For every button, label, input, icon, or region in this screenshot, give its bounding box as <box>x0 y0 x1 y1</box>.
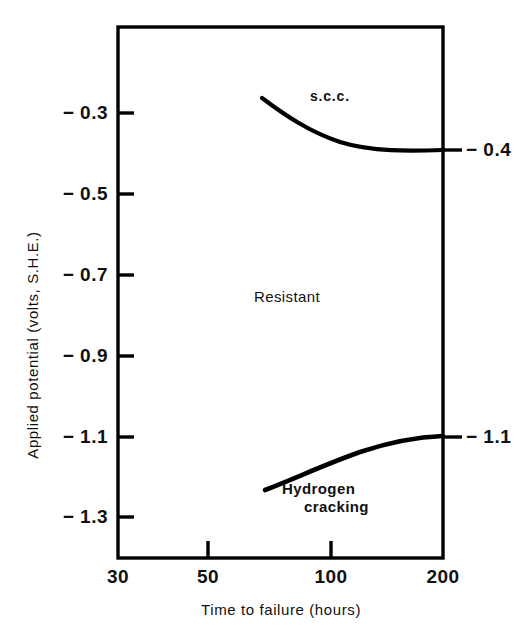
y-tick-label-0.5: − 0.5 <box>24 183 108 205</box>
y-axis-title: Applied potential (volts, S.H.E.) <box>24 231 41 458</box>
plot-area <box>0 0 521 635</box>
chart-figure: − 0.3 − 0.5 − 0.7 − 0.9 − 1.1 − 1.3 − 0.… <box>0 0 521 635</box>
x-axis-ticks <box>208 541 331 558</box>
x-axis-title: Time to failure (hours) <box>201 601 361 618</box>
curve-scc <box>262 98 443 151</box>
y-axis-ticks-left <box>118 113 134 517</box>
y-tick-label-right-1.1: − 1.1 <box>466 426 511 448</box>
x-tick-label-30: 30 <box>107 566 129 588</box>
region-label-hydrogen-line2: cracking <box>282 498 369 516</box>
region-label-hydrogen-cracking: Hydrogencracking <box>282 480 369 516</box>
region-label-hydrogen-line1: Hydrogen <box>282 480 355 497</box>
region-label-scc: s.c.c. <box>310 88 350 104</box>
region-label-resistant: Resistant <box>254 288 320 305</box>
x-tick-label-50: 50 <box>197 566 219 588</box>
x-tick-label-100: 100 <box>314 566 347 588</box>
y-axis-ticks-right <box>443 150 462 437</box>
y-tick-label-right-0.4: − 0.4 <box>466 139 511 161</box>
y-tick-label-0.3: − 0.3 <box>24 102 108 124</box>
x-tick-label-200: 200 <box>426 566 459 588</box>
y-tick-label-1.3: − 1.3 <box>24 506 108 528</box>
